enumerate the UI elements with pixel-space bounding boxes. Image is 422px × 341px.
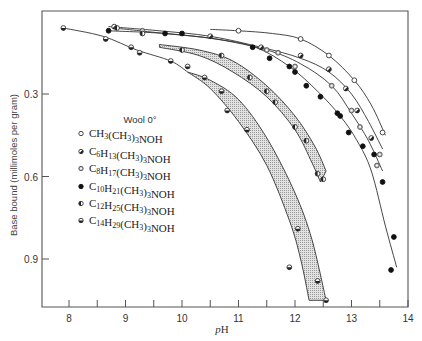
- data-point-c14h29-ch3-3noh: [324, 298, 329, 303]
- curve-c14h29-ch3-3noh: [63, 28, 187, 72]
- data-point-ch3-ch3-3noh: [352, 78, 357, 83]
- data-point-c6h13-ch3-3noh: [327, 67, 333, 73]
- data-point-c10h21-ch3-3noh: [287, 64, 292, 69]
- data-point-ch3-ch3-3noh: [298, 37, 303, 42]
- filled-circle-legend-icon: [79, 184, 83, 188]
- data-point-c12h25-ch3-3noh: [140, 31, 145, 36]
- data-point-c12h25-ch3-3noh: [321, 177, 326, 182]
- data-point-c10h21-ch3-3noh: [180, 31, 185, 36]
- data-point-c14h29-ch3-3noh: [137, 50, 142, 55]
- data-point-c12h25-ch3-3noh: [304, 138, 309, 143]
- data-point-c10h21-ch3-3noh: [360, 144, 365, 149]
- data-point-c14h29-ch3-3noh: [185, 64, 190, 69]
- data-point-c14h29-ch3-3noh: [61, 26, 66, 31]
- data-point-c6h13-ch3-3noh: [343, 86, 349, 92]
- data-point-c10h21-ch3-3noh: [250, 45, 255, 50]
- x-tick-label: 12: [289, 313, 301, 324]
- y-axis-title: Base bound (millimoles per gram): [8, 94, 19, 236]
- legend-item: CH3(CH3)3NOH: [79, 127, 163, 145]
- data-point-c12h25-ch3-3noh: [273, 100, 278, 105]
- data-point-c14h29-ch3-3noh: [315, 279, 320, 284]
- legend-item: C8H17(CH3)3NOH: [79, 162, 171, 182]
- data-point-c14h29-ch3-3noh: [202, 75, 207, 80]
- data-point-c6h13-ch3-3noh: [259, 45, 265, 51]
- data-point-c6h13-ch3-3noh: [369, 136, 375, 142]
- plot-frame: [42, 11, 408, 307]
- data-point-c12h25-ch3-3noh: [180, 48, 185, 53]
- half-filled-circle-legend-icon: [79, 149, 84, 154]
- legend-label: C12H25(CH3)3NOH: [89, 197, 175, 217]
- data-point-c8h17-ch3-3noh: [293, 64, 298, 69]
- data-point-c10h21-ch3-3noh: [293, 70, 298, 75]
- data-point-c10h21-ch3-3noh: [163, 31, 168, 36]
- data-point-c10h21-ch3-3noh: [372, 152, 377, 157]
- shaded-band-c14h29-ch3-3noh: [188, 72, 327, 300]
- data-point-c8h17-ch3-3noh: [276, 50, 281, 55]
- data-point-c12h25-ch3-3noh: [264, 89, 269, 94]
- data-point-c10h21-ch3-3noh: [380, 180, 385, 185]
- data-point-c10h21-ch3-3noh: [338, 114, 343, 119]
- y-tick-label: 0.6: [24, 172, 38, 183]
- data-point-c10h21-ch3-3noh: [304, 83, 309, 88]
- data-point-c14h29-ch3-3noh: [103, 37, 108, 42]
- data-point-c10h21-ch3-3noh: [106, 28, 111, 33]
- data-point-c8h17-ch3-3noh: [358, 125, 363, 130]
- x-tick-label: 11: [233, 313, 244, 324]
- left-half-circle-legend-icon: [79, 201, 83, 205]
- data-point-ch3-ch3-3noh: [327, 53, 332, 58]
- data-point-c12h25-ch3-3noh: [293, 125, 298, 130]
- data-point-c6h13-ch3-3noh: [355, 108, 361, 114]
- legend: Wool 0°CH3(CH3)3NOHC6H13(CH3)3NOHC8H17(C…: [79, 114, 175, 234]
- data-point-ch3-ch3-3noh: [380, 130, 385, 135]
- data-point-c8h17-ch3-3noh: [329, 83, 334, 88]
- data-point-c12h25-ch3-3noh: [315, 171, 320, 176]
- x-tick-label: 10: [176, 313, 188, 324]
- data-point-c8h17-ch3-3noh: [375, 163, 380, 168]
- data-point-c14h29-ch3-3noh: [225, 108, 230, 113]
- data-point-c10h21-ch3-3noh: [346, 130, 351, 135]
- data-point-c10h21-ch3-3noh: [391, 235, 396, 240]
- x-tick-label: 8: [66, 313, 72, 324]
- data-point-c12h25-ch3-3noh: [219, 53, 224, 58]
- data-point-c12h25-ch3-3noh: [247, 75, 252, 80]
- curve-c8h17-ch3-3noh: [114, 28, 382, 171]
- y-axis: 0.30.60.9Base bound (millimoles per gram…: [8, 89, 49, 265]
- data-point-c8h17-ch3-3noh: [264, 48, 269, 53]
- data-point-c12h25-ch3-3noh: [115, 26, 120, 31]
- data-point-c10h21-ch3-3noh: [318, 94, 323, 99]
- x-axis: 891011121314pH: [66, 300, 414, 335]
- data-point-ch3-ch3-3noh: [236, 28, 241, 33]
- gray-circle-legend-icon: [79, 166, 83, 170]
- data-point-c14h29-ch3-3noh: [245, 127, 250, 132]
- plot-border: [42, 11, 408, 307]
- data-point-c8h17-ch3-3noh: [377, 152, 382, 157]
- data-point-c8h17-ch3-3noh: [349, 108, 354, 113]
- x-tick-label: 13: [346, 313, 358, 324]
- data-point-c14h29-ch3-3noh: [295, 226, 300, 231]
- legend-title: Wool 0°: [123, 114, 156, 125]
- legend-label: C10H21(CH3)3NOH: [89, 180, 175, 200]
- legend-label: CH3(CH3)3NOH: [89, 127, 163, 145]
- data-point-c14h29-ch3-3noh: [219, 89, 224, 94]
- y-tick-label: 0.3: [24, 89, 38, 100]
- chart: 891011121314pH 0.30.60.9Base bound (mill…: [0, 0, 422, 341]
- data-point-c14h29-ch3-3noh: [168, 59, 173, 64]
- x-tick-label: 9: [123, 313, 129, 324]
- shaded-bands: [159, 45, 326, 301]
- data-point-c10h21-ch3-3noh: [267, 56, 272, 61]
- data-point-c10h21-ch3-3noh: [389, 268, 394, 273]
- open-circle-legend-icon: [79, 131, 83, 135]
- legend-label: C14H29(CH3)3NOH: [89, 214, 175, 234]
- legend-item: C14H29(CH3)3NOH: [79, 214, 175, 234]
- data-point-c14h29-ch3-3noh: [129, 45, 134, 50]
- bottom-half-circle-legend-icon: [79, 218, 83, 222]
- legend-label: C6H13(CH3)3NOH: [89, 145, 171, 165]
- x-tick-label: 14: [402, 313, 414, 324]
- x-axis-title: pH: [214, 323, 229, 335]
- data-point-c14h29-ch3-3noh: [287, 265, 292, 270]
- y-tick-label: 0.9: [24, 254, 38, 265]
- legend-label: C8H17(CH3)3NOH: [89, 162, 171, 182]
